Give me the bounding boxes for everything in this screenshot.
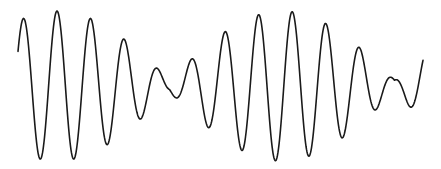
waveform-plot	[0, 0, 441, 169]
beat-waveform-line	[18, 11, 423, 161]
